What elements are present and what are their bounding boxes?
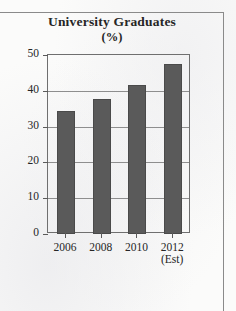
bar [57,111,75,234]
page-rule-right [223,12,224,311]
y-axis-tick [43,91,48,92]
bar [93,99,111,234]
y-axis-label: 30 [7,120,39,132]
y-axis-label: 0 [7,227,39,239]
x-axis-sublabel: (Est) [149,253,195,265]
x-axis-tick [136,233,137,238]
plot-area [47,54,190,233]
page-rule-top [0,12,224,13]
x-axis-label: 2012(Est) [149,241,195,265]
y-axis-label: 10 [7,191,39,203]
bar [164,64,182,234]
x-axis-tick [172,233,173,238]
y-axis-label: 40 [7,84,39,96]
bar [128,85,146,234]
chart-title: University Graduates [14,15,210,29]
chart-subtitle: (%) [14,31,210,44]
y-axis-tick [43,198,48,199]
y-axis-tick [43,55,48,56]
y-axis-label: 50 [7,48,39,60]
y-axis-tick [43,162,48,163]
x-axis-tick [65,233,66,238]
y-axis-label: 20 [7,155,39,167]
y-axis-tick [43,234,48,235]
chart-page: University Graduates (%) 01020304050 200… [0,0,236,311]
y-axis-tick [43,127,48,128]
x-axis-tick [101,233,102,238]
